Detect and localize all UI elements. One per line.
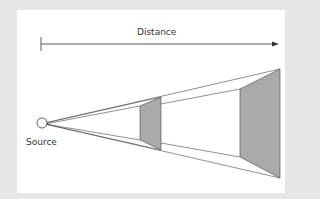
distance-label: Distance: [137, 27, 176, 37]
distance-arrow: [41, 37, 279, 51]
source-label: Source: [26, 137, 57, 147]
far-surface: [240, 69, 280, 178]
arrowhead-icon: [272, 42, 279, 47]
near-surface: [140, 97, 161, 150]
source-icon: [37, 118, 47, 128]
